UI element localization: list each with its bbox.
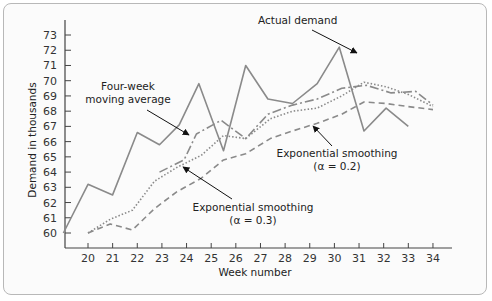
annotation-exp03-line2: (α = 0.3) bbox=[229, 214, 276, 226]
x-tick-label: 28 bbox=[278, 252, 292, 265]
x-axis-label: Week number bbox=[218, 266, 292, 278]
arrow-ma bbox=[147, 110, 189, 135]
annotation-exp02-line2: (α = 0.2) bbox=[313, 160, 360, 172]
x-tick-label: 24 bbox=[180, 252, 194, 265]
x-tick-label: 21 bbox=[106, 252, 120, 265]
y-tick-label: 60 bbox=[43, 227, 57, 240]
y-tick-label: 62 bbox=[43, 197, 57, 210]
y-tick-label: 63 bbox=[43, 181, 57, 194]
x-tick-label: 34 bbox=[426, 252, 440, 265]
y-tick-label: 64 bbox=[43, 166, 57, 179]
arrow-exp02 bbox=[313, 126, 332, 146]
x-tick-label: 25 bbox=[204, 252, 218, 265]
arrow-actual bbox=[312, 30, 357, 53]
y-tick-label: 67 bbox=[43, 120, 57, 133]
y-tick-label: 72 bbox=[43, 44, 57, 57]
y-tick-label: 70 bbox=[43, 75, 57, 88]
annotation-actual-demand: Actual demand bbox=[258, 14, 337, 26]
x-tick-label: 31 bbox=[352, 252, 366, 265]
series-line-1 bbox=[160, 85, 434, 172]
x-tick-label: 23 bbox=[155, 252, 169, 265]
x-tick-label: 26 bbox=[229, 252, 243, 265]
y-tick-label: 68 bbox=[43, 105, 57, 118]
annotation-ma-line1: Four-week bbox=[101, 80, 156, 92]
x-tick-label: 32 bbox=[377, 252, 391, 265]
x-tick-label: 22 bbox=[130, 252, 144, 265]
x-tick-label: 30 bbox=[327, 252, 341, 265]
y-tick-label: 69 bbox=[43, 90, 57, 103]
x-tick-label: 27 bbox=[253, 252, 267, 265]
x-tick-label: 20 bbox=[81, 252, 95, 265]
annotation-exp03-line1: Exponential smoothing bbox=[193, 201, 314, 213]
x-tick-label: 33 bbox=[401, 252, 415, 265]
y-tick-label: 71 bbox=[43, 59, 57, 72]
annotation-ma-line2: moving average bbox=[85, 93, 170, 105]
y-tick-label: 65 bbox=[43, 151, 57, 164]
annotation-exp02-line1: Exponential smoothing bbox=[277, 147, 398, 159]
y-tick-label: 66 bbox=[43, 136, 57, 149]
y-tick-label: 61 bbox=[43, 212, 57, 225]
y-tick-label: 73 bbox=[43, 29, 57, 42]
arrow-exp03 bbox=[183, 167, 232, 199]
x-tick-label: 29 bbox=[303, 252, 317, 265]
axes: 6061626364656667686970717273202122232425… bbox=[43, 20, 452, 265]
y-axis-label: Demand in thousands bbox=[26, 82, 38, 197]
line-chart: 6061626364656667686970717273202122232425… bbox=[0, 0, 492, 301]
